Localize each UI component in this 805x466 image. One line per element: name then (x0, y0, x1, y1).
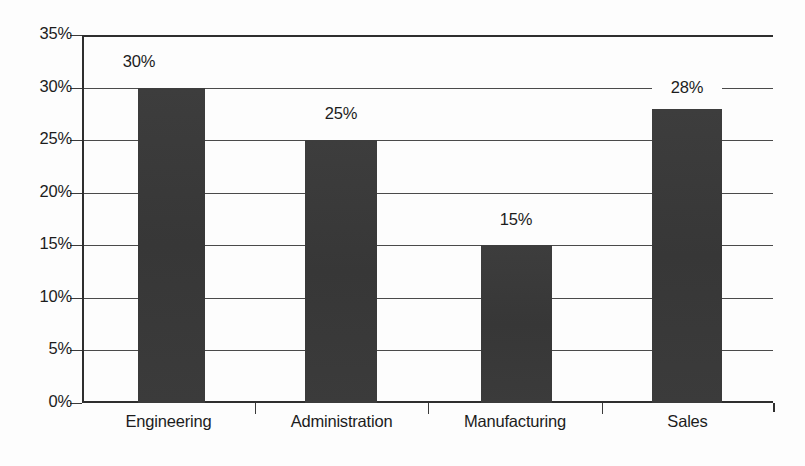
gridline-35 (82, 35, 773, 37)
data-label-engineering: 30% (104, 52, 174, 71)
y-axis-label-0: 0% (12, 392, 72, 411)
bar-sales (652, 109, 722, 403)
y-axis-label-35: 35% (12, 24, 72, 43)
bar-manufacturing (481, 245, 552, 403)
bar-administration (305, 140, 377, 403)
data-label-manufacturing: 15% (481, 210, 551, 229)
x-tick-end (773, 403, 775, 412)
y-axis-label-5: 5% (12, 339, 72, 358)
x-axis-label-administration: Administration (255, 412, 428, 431)
y-axis-label-10: 10% (12, 287, 72, 306)
y-axis-label-30: 30% (12, 77, 72, 96)
y-axis-label-25: 25% (12, 129, 72, 148)
bar-engineering (138, 88, 205, 403)
data-label-administration: 25% (306, 104, 376, 123)
y-axis-line (82, 35, 84, 403)
y-axis-label-15: 15% (12, 234, 72, 253)
data-label-sales: 28% (652, 78, 722, 97)
x-axis-label-engineering: Engineering (82, 412, 255, 431)
y-axis-label-20: 20% (12, 182, 72, 201)
x-axis-label-manufacturing: Manufacturing (428, 412, 602, 431)
bar-chart: 35% 30% 25% 20% 15% 10% 5% 0% 30% 25% 15… (0, 0, 805, 466)
x-axis-label-sales: Sales (602, 412, 773, 431)
